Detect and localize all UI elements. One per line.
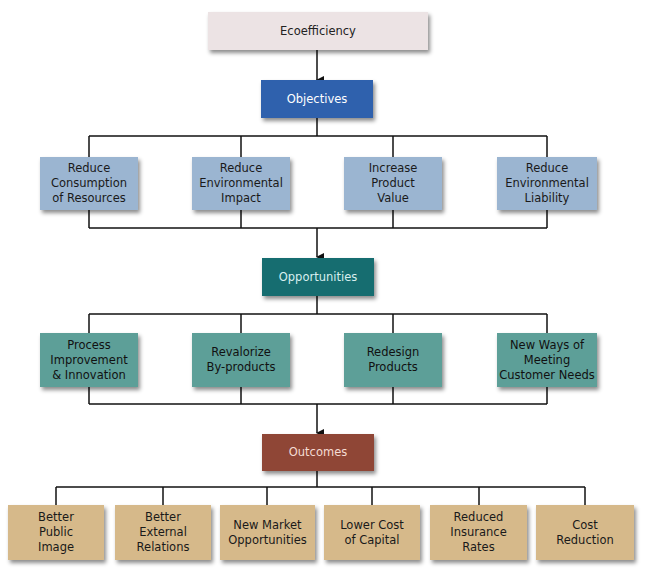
node-objective-2: Reduce Environmental Impact: [192, 157, 290, 210]
node-label: New Ways of Meeting Customer Needs: [499, 338, 595, 383]
node-label: Increase Product Value: [369, 161, 418, 206]
node-outcome-1: Better Public Image: [8, 505, 104, 560]
node-outcome-3: New Market Opportunities: [220, 505, 315, 560]
node-label: Outcomes: [289, 445, 347, 460]
node-label: Reduced Insurance Rates: [450, 510, 506, 555]
node-label: New Market Opportunities: [228, 518, 306, 548]
node-label: Redesign Products: [367, 345, 420, 375]
node-objective-1: Reduce Consumption of Resources: [40, 157, 138, 210]
node-outcome-4: Lower Cost of Capital: [324, 505, 420, 560]
node-ecoefficiency: Ecoefficiency: [208, 12, 428, 50]
node-opportunity-1: Process Improvement & Innovation: [40, 333, 138, 387]
node-outcome-5: Reduced Insurance Rates: [430, 505, 527, 560]
node-label: Lower Cost of Capital: [340, 518, 404, 548]
node-label: Objectives: [287, 92, 348, 107]
node-opportunity-2: Revalorize By-products: [192, 333, 290, 387]
node-objectives: Objectives: [261, 80, 373, 118]
node-opportunities: Opportunities: [262, 258, 374, 296]
node-label: Opportunities: [279, 270, 357, 285]
node-label: Revalorize By-products: [207, 345, 276, 375]
node-opportunity-3: Redesign Products: [344, 333, 442, 387]
node-label: Ecoefficiency: [280, 24, 356, 39]
node-outcome-6: Cost Reduction: [536, 505, 634, 560]
node-label: Reduce Consumption of Resources: [51, 161, 127, 206]
node-label: Cost Reduction: [556, 518, 614, 548]
node-opportunity-4: New Ways of Meeting Customer Needs: [497, 333, 597, 387]
node-label: Reduce Environmental Liability: [505, 161, 589, 206]
node-label: Better Public Image: [38, 510, 74, 555]
node-objective-4: Reduce Environmental Liability: [497, 157, 597, 210]
node-label: Better External Relations: [137, 510, 190, 555]
node-label: Reduce Environmental Impact: [199, 161, 283, 206]
node-outcomes: Outcomes: [262, 434, 374, 471]
node-objective-3: Increase Product Value: [344, 157, 442, 210]
node-label: Process Improvement & Innovation: [50, 338, 127, 383]
ecoefficiency-diagram: Ecoefficiency Objectives Reduce Consumpt…: [0, 0, 655, 583]
node-outcome-2: Better External Relations: [115, 505, 211, 560]
